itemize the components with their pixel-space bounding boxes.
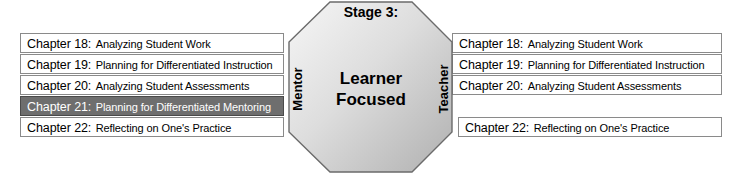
chapter-row-highlighted[interactable]: Chapter 21: Planning for Differentiated … <box>20 96 284 116</box>
diagram-canvas: Chapter 18: Analyzing Student Work Chapt… <box>0 0 745 178</box>
chapter-number: Chapter 19: <box>27 58 91 72</box>
teacher-side-label: Teacher <box>435 29 453 149</box>
chapter-title: Analyzing Student Work <box>96 38 211 50</box>
chapter-number: Chapter 18: <box>27 37 91 51</box>
chapter-row[interactable]: Chapter 22: Reflecting on One's Practice <box>458 117 722 137</box>
chapter-number: Chapter 21: <box>27 100 91 114</box>
chapter-number: Chapter 20: <box>27 79 91 93</box>
chapter-row-empty <box>452 96 722 116</box>
chapter-title: Analyzing Student Assessments <box>528 80 682 92</box>
chapter-title: Analyzing Student Work <box>528 38 643 50</box>
chapter-title: Planning for Differentiated Instruction <box>96 59 273 71</box>
chapter-row[interactable]: Chapter 22: Reflecting on One's Practice <box>20 117 284 137</box>
chapter-row[interactable]: Chapter 19: Planning for Differentiated … <box>20 54 284 74</box>
chapter-row[interactable]: Chapter 18: Analyzing Student Work <box>20 33 284 53</box>
chapter-number: Chapter 22: <box>27 121 91 135</box>
chapter-title: Analyzing Student Assessments <box>96 80 250 92</box>
central-octagon: Stage 3: Learner Focused Mentor Teacher <box>272 0 470 178</box>
chapter-title: Planning for Differentiated Mentoring <box>96 101 271 113</box>
stage-label: Stage 3: <box>272 4 470 20</box>
chapter-row[interactable]: Chapter 18: Analyzing Student Work <box>452 33 722 53</box>
chapter-title: Reflecting on One's Practice <box>534 122 670 134</box>
chapter-number: Chapter 22: <box>465 121 529 135</box>
mentor-side-label: Mentor <box>289 29 307 149</box>
chapter-row[interactable]: Chapter 20: Analyzing Student Assessment… <box>452 75 722 95</box>
chapter-title: Planning for Differentiated Instruction <box>528 59 705 71</box>
chapter-title: Reflecting on One's Practice <box>96 122 232 134</box>
chapter-row[interactable]: Chapter 19: Planning for Differentiated … <box>452 54 722 74</box>
chapter-row[interactable]: Chapter 20: Analyzing Student Assessment… <box>20 75 284 95</box>
